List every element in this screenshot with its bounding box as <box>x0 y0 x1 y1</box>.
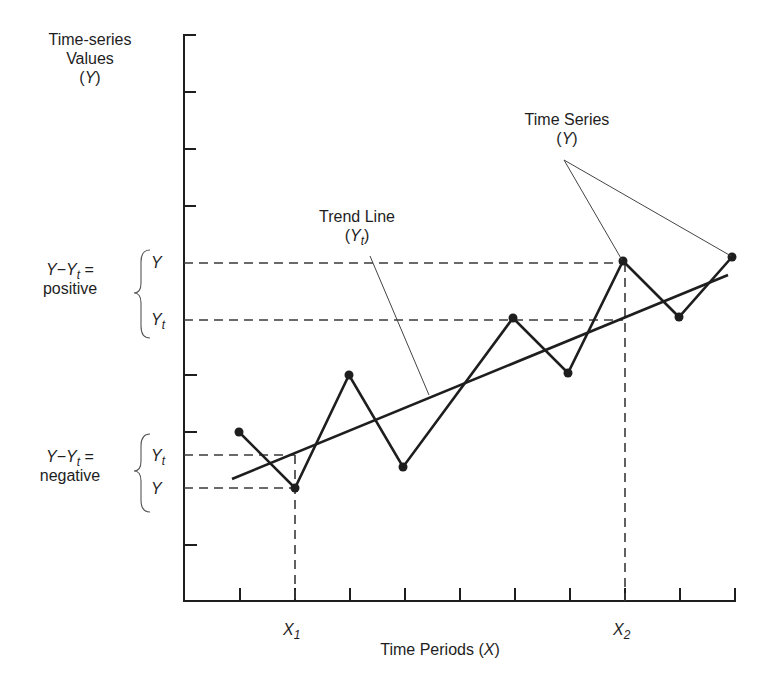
brace-negative <box>134 434 150 512</box>
x-axis-title: Time Periods (X) <box>350 640 530 659</box>
y-axis-title-line3: (Y) <box>40 68 140 87</box>
chart-canvas <box>0 0 774 688</box>
negative-word: negative <box>14 466 126 485</box>
positive-word: positive <box>14 279 126 298</box>
trend-line <box>232 275 728 479</box>
axes <box>184 35 736 601</box>
y-axis-title: Time-series Values (Y) <box>40 30 140 87</box>
time-series-line <box>239 257 732 488</box>
trend-line-label-line1: Trend Line <box>310 207 404 226</box>
leader-lines <box>370 160 731 395</box>
y-axis <box>184 35 736 601</box>
y-axis-title-line2: Values <box>40 49 140 68</box>
trend-line-label-line2: (Yt) <box>310 226 404 245</box>
time-series-label-line2: (Y) <box>520 129 614 148</box>
positive-deviation-label: Y−Yt = positive <box>14 260 126 298</box>
negative-deviation-label: Y−Yt = negative <box>14 447 126 485</box>
reference-dashes <box>184 263 625 601</box>
time-series-label-line1: Time Series <box>520 110 614 129</box>
time-series-label: Time Series (Y) <box>520 110 614 148</box>
braces <box>134 250 150 512</box>
x1-label: X1 <box>283 620 300 639</box>
x2-label: X2 <box>613 620 630 639</box>
trend-line-label: Trend Line (Yt) <box>310 207 404 245</box>
brace-positive <box>134 250 150 338</box>
brace-positive-y: Y <box>151 253 162 272</box>
brace-negative-yt: Yt <box>151 446 165 465</box>
negative-expression: Y−Yt = <box>14 447 126 466</box>
y-axis-title-line1: Time-series <box>40 30 140 49</box>
brace-positive-yt: Yt <box>151 310 165 329</box>
brace-negative-y: Y <box>151 479 162 498</box>
positive-expression: Y−Yt = <box>14 260 126 279</box>
